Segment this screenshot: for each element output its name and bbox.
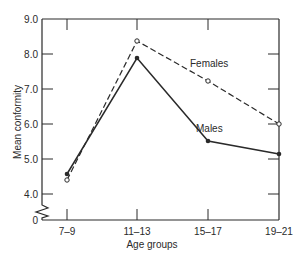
plot-frame — [36, 19, 279, 220]
males-label: Males — [196, 123, 223, 134]
line-chart: 9.0 8.0 7.0 6.0 5.0 4.0 0 7–9 11–13 15–1… — [0, 0, 304, 256]
y-ticks — [42, 19, 279, 220]
females-line — [67, 41, 279, 180]
y-tick-5: 5.0 — [24, 154, 38, 165]
x-tick-15-17: 15–17 — [194, 226, 222, 237]
males-markers — [65, 56, 282, 177]
y-axis-label: Mean conformity — [12, 85, 23, 159]
y-tick-8: 8.0 — [24, 49, 38, 60]
females-label: Females — [190, 58, 228, 69]
y-tick-6: 6.0 — [24, 119, 38, 130]
males-line — [67, 58, 279, 174]
x-tick-19-21: 19–21 — [265, 226, 293, 237]
x-tick-11-13: 11–13 — [123, 226, 151, 237]
y-tick-9: 9.0 — [24, 14, 38, 25]
x-tick-7-9: 7–9 — [59, 226, 76, 237]
x-axis-label: Age groups — [126, 239, 177, 250]
y-tick-7: 7.0 — [24, 84, 38, 95]
females-markers — [65, 39, 281, 182]
y-tick-4: 4.0 — [24, 189, 38, 200]
y-tick-0: 0 — [32, 215, 38, 226]
